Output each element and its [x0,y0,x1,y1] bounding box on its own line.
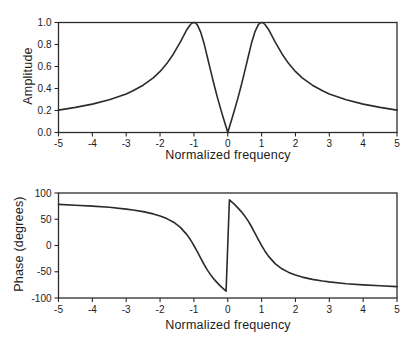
x-tick-label: -4 [88,304,97,315]
figure: Amplitude -5-4-3-2-10123450.00.20.40.60.… [0,0,419,356]
y-tick-label: 0.2 [38,105,52,116]
plot-frame [59,23,398,133]
x-tick-label: -5 [54,138,63,149]
phase-response-curve [59,200,398,291]
phase-x-axis-label: Normalized frequency [143,318,313,332]
x-tick-label: 5 [394,138,400,149]
y-tick-label: -100 [31,293,51,304]
x-tick-label: -2 [156,304,165,315]
x-tick-label: 1 [259,304,265,315]
x-tick-label: 0 [225,304,231,315]
y-tick-label: 1.0 [38,17,52,28]
y-tick-label: 50 [40,214,52,225]
y-tick-label: 0.6 [38,61,52,72]
y-tick-label: 0 [46,240,52,251]
x-tick-label: 5 [394,304,400,315]
x-tick-label: -3 [122,304,131,315]
x-tick-label: 4 [360,304,366,315]
y-tick-label: 0.0 [38,127,52,138]
y-tick-label: 0.4 [38,83,52,94]
x-axis-ticks: -5-4-3-2-1012345 [54,133,400,150]
x-tick-label: 4 [360,138,366,149]
x-tick-label: 3 [327,304,333,315]
amplitude-response-curve [59,23,398,133]
y-axis-ticks: -100-50050100 [31,188,58,304]
y-tick-label: 100 [35,188,52,199]
x-tick-label: -1 [189,304,198,315]
y-tick-label: 0.8 [38,39,52,50]
x-axis-ticks: -5-4-3-2-1012345 [54,298,400,315]
y-tick-label: -50 [37,266,52,277]
y-axis-ticks: 0.00.20.40.60.81.0 [38,17,59,138]
x-tick-label: 3 [327,138,333,149]
x-tick-label: 2 [293,304,299,315]
amplitude-x-axis-label: Normalized frequency [143,148,313,162]
x-tick-label: -5 [54,304,63,315]
x-tick-label: -4 [88,138,97,149]
x-tick-label: -3 [122,138,131,149]
